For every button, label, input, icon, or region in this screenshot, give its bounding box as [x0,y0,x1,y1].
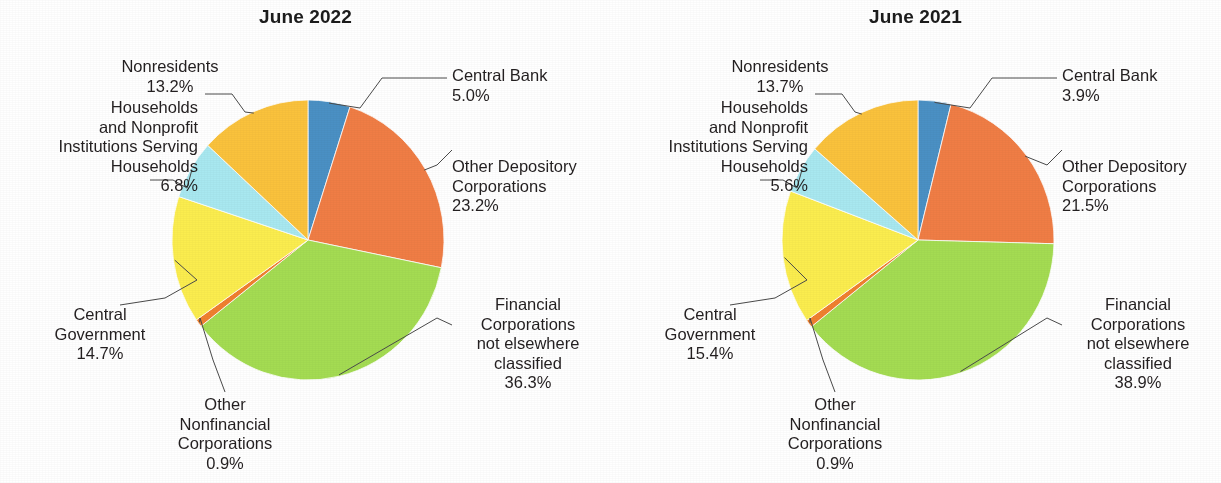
slice-label-financial-corporations-nec-left: Financial Corporations not elsewhere cla… [448,295,608,393]
slice-label-percent: 15.4% [630,344,790,364]
slice-label-name: Financial Corporations not elsewhere cla… [1087,295,1190,372]
slice-label-percent: 13.2% [95,77,245,97]
slice-label-name: Other Depository Corporations [1062,157,1187,195]
slice-label-name: Central Government [55,305,146,343]
slice-label-nonresidents-left: Nonresidents13.2% [95,57,245,96]
slice-label-name: Households and Nonprofit Institutions Se… [669,98,808,175]
slice-label-central-government-right: Central Government15.4% [630,305,790,364]
slice-label-percent: 38.9% [1058,373,1218,393]
figure-root: June 2022 Central Bank5.0% Other Deposit… [0,0,1221,483]
slice-label-percent: 13.7% [705,77,855,97]
slice-label-percent: 3.9% [1062,86,1212,106]
leader-line [935,78,1058,108]
slice-label-name: Nonresidents [731,57,828,75]
slice-label-name: Central Government [665,305,756,343]
slice-label-nonresidents-right: Nonresidents13.7% [705,57,855,96]
slice-label-percent: 14.7% [20,344,180,364]
slice-label-other-nonfinancial-corporations-left: Other Nonfinancial Corporations0.9% [150,395,300,473]
slice-label-percent: 5.0% [452,86,602,106]
slice-label-percent: 0.9% [150,454,300,474]
slice-label-name: Central Bank [1062,66,1157,84]
slice-label-name: Other Nonfinancial Corporations [788,395,882,452]
slice-label-name: Other Nonfinancial Corporations [178,395,272,452]
pie-chart-panel-june-2022: June 2022 Central Bank5.0% Other Deposit… [0,0,611,483]
slice-label-name: Central Bank [452,66,547,84]
slice-label-name: Nonresidents [121,57,218,75]
slice-label-other-nonfinancial-corporations-right: Other Nonfinancial Corporations0.9% [760,395,910,473]
leader-line [205,94,254,113]
leader-line [329,78,447,108]
slice-label-percent: 21.5% [1062,196,1220,216]
slice-label-percent: 5.6% [620,176,808,196]
slice-label-other-depository-corporations-right: Other Depository Corporations21.5% [1062,157,1220,216]
slice-label-other-depository-corporations-left: Other Depository Corporations23.2% [452,157,610,216]
slice-label-name: Other Depository Corporations [452,157,577,195]
slice-label-households-npish-right: Households and Nonprofit Institutions Se… [620,98,808,196]
slice-label-households-npish-left: Households and Nonprofit Institutions Se… [10,98,198,196]
pie-chart-panel-june-2021: June 2021 Central Bank3.9% Other Deposit… [610,0,1221,483]
slice-label-financial-corporations-nec-right: Financial Corporations not elsewhere cla… [1058,295,1218,393]
slice-label-name: Households and Nonprofit Institutions Se… [59,98,198,175]
leader-line [424,150,452,170]
slice-label-name: Financial Corporations not elsewhere cla… [477,295,580,372]
slice-label-percent: 6.8% [10,176,198,196]
slice-label-percent: 36.3% [448,373,608,393]
slice-label-central-government-left: Central Government14.7% [20,305,180,364]
slice-label-central-bank-right: Central Bank3.9% [1062,66,1212,105]
leader-line [815,94,862,114]
slice-label-percent: 23.2% [452,196,610,216]
slice-label-central-bank-left: Central Bank5.0% [452,66,602,105]
slice-label-percent: 0.9% [760,454,910,474]
